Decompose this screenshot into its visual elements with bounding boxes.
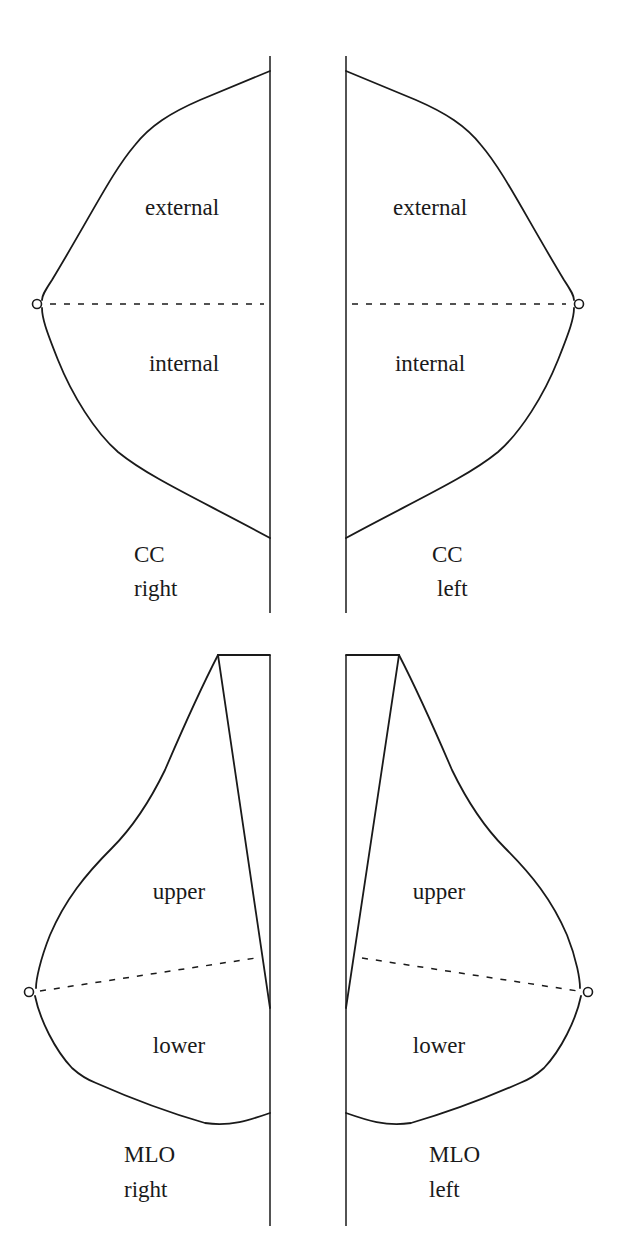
cc-left-external-label: external (393, 195, 467, 220)
mlo-left-divider-dashed (362, 958, 578, 991)
mlo-left-panel: upper lower MLO left (346, 655, 593, 1226)
mlo-left-caption-side: left (429, 1177, 460, 1202)
mlo-right-nipple-marker (25, 988, 34, 997)
mlo-right-lower-label: lower (153, 1033, 206, 1058)
mlo-right-divider-dashed (40, 958, 256, 991)
cc-right-external-label: external (145, 195, 219, 220)
mlo-right-pectoral-muscle-line (218, 655, 270, 1008)
cc-right-caption-view: CC (134, 542, 165, 567)
mlo-left-caption-view: MLO (429, 1142, 480, 1167)
cc-right-caption-side: right (134, 576, 178, 601)
cc-left-panel: external internal CC left (346, 56, 584, 613)
mammography-diagram: external internal CC right external inte… (0, 0, 626, 1246)
mlo-left-lower-label: lower (413, 1033, 466, 1058)
mlo-right-caption-view: MLO (124, 1142, 175, 1167)
cc-right-internal-label: internal (149, 351, 219, 376)
cc-left-caption-side: left (437, 576, 468, 601)
mlo-right-upper-label: upper (153, 879, 206, 904)
cc-right-panel: external internal CC right (33, 56, 271, 613)
mlo-left-upper-label: upper (413, 879, 466, 904)
mlo-left-nipple-marker (584, 988, 593, 997)
mlo-right-caption-side: right (124, 1177, 168, 1202)
cc-right-nipple-marker (33, 300, 42, 309)
cc-left-caption-view: CC (432, 542, 463, 567)
mlo-right-panel: upper lower MLO right (25, 655, 271, 1226)
cc-left-nipple-marker (575, 300, 584, 309)
mlo-left-pectoral-muscle-line (346, 655, 399, 1008)
cc-left-internal-label: internal (395, 351, 465, 376)
